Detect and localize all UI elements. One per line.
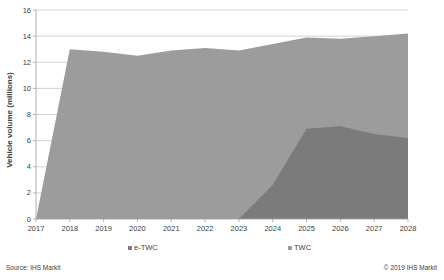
y-axis-label-text: Vehicle volume (millions) <box>5 72 14 168</box>
legend-label-twc: TWC <box>294 243 311 252</box>
y-tick-label: 10 <box>23 84 31 93</box>
area-chart: 0246810121416201720182019202020212022202… <box>0 0 444 280</box>
x-tick-label: 2019 <box>95 224 112 233</box>
x-tick-label: 2021 <box>163 224 180 233</box>
y-tick-label: 4 <box>27 162 31 171</box>
y-tick-label: 14 <box>23 32 31 41</box>
y-tick-label: 12 <box>23 58 31 67</box>
legend: e-TWC TWC <box>0 243 444 257</box>
y-tick-label: 0 <box>27 215 31 224</box>
copyright-note: © 2019 IHS Markit <box>384 264 437 271</box>
y-tick-label: 6 <box>27 136 31 145</box>
x-tick-label: 2018 <box>61 224 78 233</box>
x-tick-label: 2028 <box>400 224 417 233</box>
x-tick-label: 2020 <box>129 224 146 233</box>
x-tick-label: 2024 <box>264 224 281 233</box>
legend-item-e-twc: e-TWC <box>128 243 158 252</box>
y-axis-label: Vehicle volume (millions) <box>2 60 16 180</box>
legend-label-e-twc: e-TWC <box>134 243 158 252</box>
legend-item-twc: TWC <box>288 243 311 252</box>
y-tick-label: 2 <box>27 188 31 197</box>
x-tick-label: 2017 <box>28 224 45 233</box>
y-tick-label: 8 <box>27 110 31 119</box>
x-tick-label: 2026 <box>332 224 349 233</box>
y-tick-label: 16 <box>23 6 31 15</box>
x-tick-label: 2027 <box>366 224 383 233</box>
legend-swatch-twc-icon <box>288 246 292 250</box>
x-tick-label: 2022 <box>197 224 214 233</box>
x-tick-label: 2025 <box>298 224 315 233</box>
source-note: Source: IHS Markit <box>6 264 61 271</box>
x-tick-label: 2023 <box>231 224 248 233</box>
legend-swatch-e-twc-icon <box>128 246 132 250</box>
